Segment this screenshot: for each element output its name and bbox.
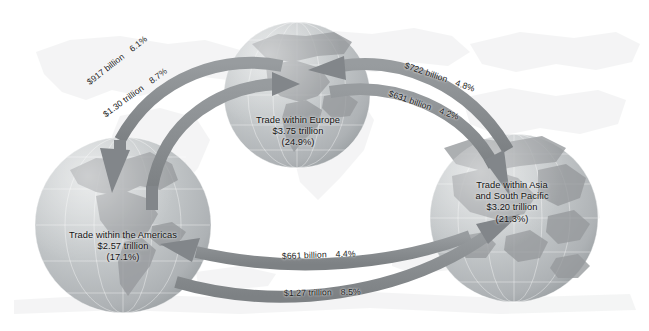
trade-flow-diagram: Trade within the Americas $2.57 trillion… <box>0 0 649 331</box>
flow-arrows-and-globes <box>0 0 649 331</box>
